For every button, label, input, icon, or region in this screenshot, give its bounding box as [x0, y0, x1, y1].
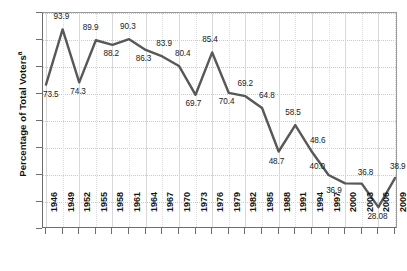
- x-tick-label: 1988: [282, 192, 292, 236]
- x-tick-mark: [361, 228, 362, 234]
- x-tick-mark: [344, 228, 345, 234]
- data-point-label: 69.2: [237, 79, 253, 88]
- x-tick-label: 1958: [115, 192, 125, 236]
- x-tick-mark: [62, 228, 63, 234]
- data-point-label: 69.7: [186, 99, 202, 108]
- x-tick-mark: [128, 228, 129, 234]
- x-tick-mark: [294, 228, 295, 234]
- data-point-label: 36.8: [358, 168, 374, 177]
- y-axis-title-text: Percentage of Total Voters: [17, 55, 28, 177]
- data-point-label: 28.08: [367, 212, 387, 221]
- x-tick-label: 2009: [398, 192, 407, 236]
- x-tick-label: 1964: [149, 192, 159, 236]
- x-tick-mark: [78, 228, 79, 234]
- data-point-label: 85.4: [202, 35, 218, 44]
- x-tick-label: 1973: [199, 192, 209, 236]
- x-tick-label: 2000: [348, 192, 358, 236]
- data-point-label: 74.3: [70, 87, 86, 96]
- x-tick-mark: [244, 228, 245, 234]
- x-tick-mark: [195, 228, 196, 234]
- x-tick-label: 1985: [265, 192, 275, 236]
- data-point-label: 40.0: [310, 162, 326, 171]
- x-tick-mark: [278, 228, 279, 234]
- x-tick-mark: [111, 228, 112, 234]
- y-axis-title: Percentage of Total Votersa: [16, 34, 28, 194]
- data-point-label: 48.6: [310, 136, 326, 145]
- data-point-label: 36.9: [326, 186, 342, 195]
- series-polyline: [46, 29, 395, 207]
- x-tick-mark: [311, 228, 312, 234]
- x-tick-mark: [394, 228, 395, 234]
- x-tick-mark: [211, 228, 212, 234]
- x-tick-label: 1955: [99, 192, 109, 236]
- data-point-label: 93.9: [54, 12, 70, 21]
- data-point-label: 73.5: [43, 90, 59, 99]
- voter-turnout-line-chart: Percentage of Total Votersa 100908070605…: [0, 0, 407, 271]
- data-point-label: 48.7: [269, 157, 285, 166]
- x-tick-mark: [328, 228, 329, 234]
- data-point-label: 70.4: [219, 97, 235, 106]
- data-point-label: 88.2: [103, 49, 119, 58]
- x-tick-label: 1976: [215, 192, 225, 236]
- x-tick-mark: [377, 228, 378, 234]
- data-point-label: 86.3: [136, 54, 152, 63]
- x-tick-label: 1982: [248, 192, 258, 236]
- data-point-label: 83.9: [156, 39, 172, 48]
- x-tick-label: 1946: [49, 192, 59, 236]
- x-tick-label: 1949: [66, 192, 76, 236]
- x-tick-label: 1997: [332, 192, 342, 236]
- x-tick-label: 1970: [182, 192, 192, 236]
- x-tick-mark: [178, 228, 179, 234]
- y-axis-title-footnote-marker: a: [16, 51, 23, 55]
- x-tick-mark: [261, 228, 262, 234]
- data-point-label: 58.5: [285, 108, 301, 117]
- y-tick-mark: [36, 228, 42, 229]
- x-tick-label: 1952: [82, 192, 92, 236]
- x-tick-label: 1991: [298, 192, 308, 236]
- data-point-label: 64.8: [259, 91, 275, 100]
- x-tick-label: 1994: [315, 192, 325, 236]
- data-point-label: 80.4: [175, 49, 191, 58]
- x-tick-mark: [145, 228, 146, 234]
- x-tick-label: 1967: [165, 192, 175, 236]
- x-tick-label: 1979: [232, 192, 242, 236]
- x-tick-mark: [45, 228, 46, 234]
- data-point-label: 90.3: [120, 22, 136, 31]
- x-tick-mark: [161, 228, 162, 234]
- data-point-label: 38.9: [390, 162, 406, 171]
- x-tick-label: 1961: [132, 192, 142, 236]
- x-tick-mark: [95, 228, 96, 234]
- x-tick-mark: [228, 228, 229, 234]
- data-point-label: 89.9: [83, 23, 99, 32]
